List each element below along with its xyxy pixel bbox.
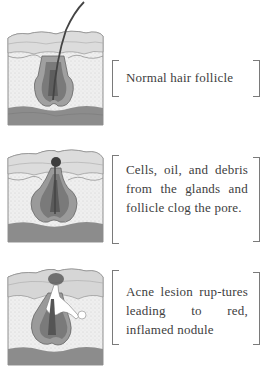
stage-normal-caption: Normal hair follicle (126, 68, 252, 87)
skin-cross-section-ruptured-lesion-icon (6, 263, 106, 373)
stage-normal: Normal hair follicle (0, 0, 267, 135)
caption-bracket-right (253, 272, 260, 345)
caption-bracket-left (112, 155, 119, 244)
stage-clogged: Cells, oil, and debris from the glands a… (0, 135, 267, 255)
stage-ruptured-caption: Acne lesion rup-tures leading to red, in… (126, 282, 248, 339)
caption-bracket-left (112, 60, 119, 97)
stage-clogged-caption: Cells, oil, and debris from the glands a… (126, 160, 248, 217)
caption-bracket-right (253, 60, 260, 97)
caption-bracket-right (253, 157, 260, 242)
skin-cross-section-clogged-pore-icon (6, 140, 106, 250)
stage-ruptured: Acne lesion rup-tures leading to red, in… (0, 255, 267, 381)
skin-cross-section-normal-follicle-icon (6, 0, 106, 132)
caption-bracket-left (112, 270, 119, 345)
